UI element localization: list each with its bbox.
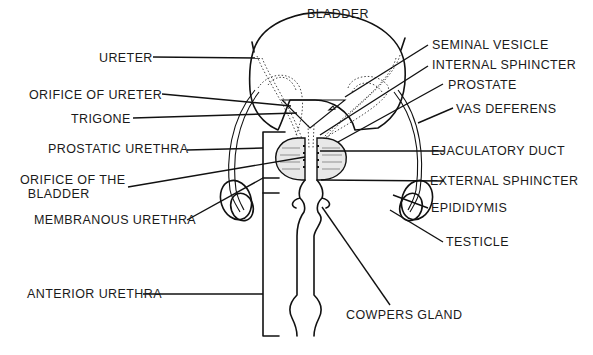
label-prostatic-urethra: PROSTATIC URETHRA: [48, 142, 188, 156]
label-testicle: TESTICLE: [446, 235, 509, 249]
label-prostate: PROSTATE: [448, 78, 517, 92]
label-anterior-urethra: ANTERIOR URETHRA: [27, 287, 162, 301]
bladder-shape: [250, 13, 406, 130]
label-internal-sphincter: INTERNAL SPHINCTER: [432, 58, 576, 72]
label-vas-deferens: VAS DEFERENS: [456, 102, 556, 116]
label-membranous-urethra: MEMBRANOUS URETHRA: [34, 213, 196, 227]
bladder-label: BLADDER: [307, 7, 369, 21]
label-trigone: TRIGONE: [71, 112, 131, 126]
label-seminal-vesicle: SEMINAL VESICLE: [432, 38, 549, 52]
label-epididymis: EPIDIDYMIS: [431, 201, 507, 215]
label-orifice-of-bladder: ORIFICE OF THE BLADDER: [20, 173, 125, 201]
prostate-shape: [276, 138, 347, 180]
label-ureter: URETER: [99, 51, 153, 65]
urethra-shape: [290, 180, 330, 336]
label-external-sphincter: EXTERNAL SPHINCTER: [430, 174, 578, 188]
label-cowpers-gland: COWPERS GLAND: [346, 308, 462, 322]
label-ejaculatory-duct: EJACULATORY DUCT: [431, 144, 565, 158]
label-orifice-of-ureter: ORIFICE OF URETER: [29, 88, 162, 102]
